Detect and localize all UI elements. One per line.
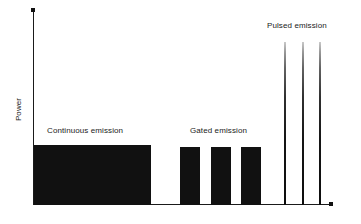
pulsed-emission-spike bbox=[319, 42, 321, 205]
pulsed-emission-label: Pulsed emission bbox=[267, 21, 327, 30]
pulsed-emission-spike bbox=[284, 42, 286, 205]
gated-emission-label: Gated emission bbox=[190, 126, 247, 135]
pulsed-emission-spike bbox=[302, 42, 304, 205]
gated-emission-bar bbox=[180, 147, 200, 205]
gated-emission-bar bbox=[211, 147, 231, 205]
power-axis-cap-icon bbox=[31, 8, 35, 12]
power-axis-label: Power bbox=[14, 80, 23, 140]
time-axis-cap-icon bbox=[329, 202, 333, 206]
emission-regimes-chart: Power Continuous emission Gated emission… bbox=[0, 0, 361, 224]
continuous-emission-label: Continuous emission bbox=[47, 126, 123, 135]
gated-emission-bar bbox=[241, 147, 261, 205]
continuous-emission-block bbox=[34, 145, 151, 205]
